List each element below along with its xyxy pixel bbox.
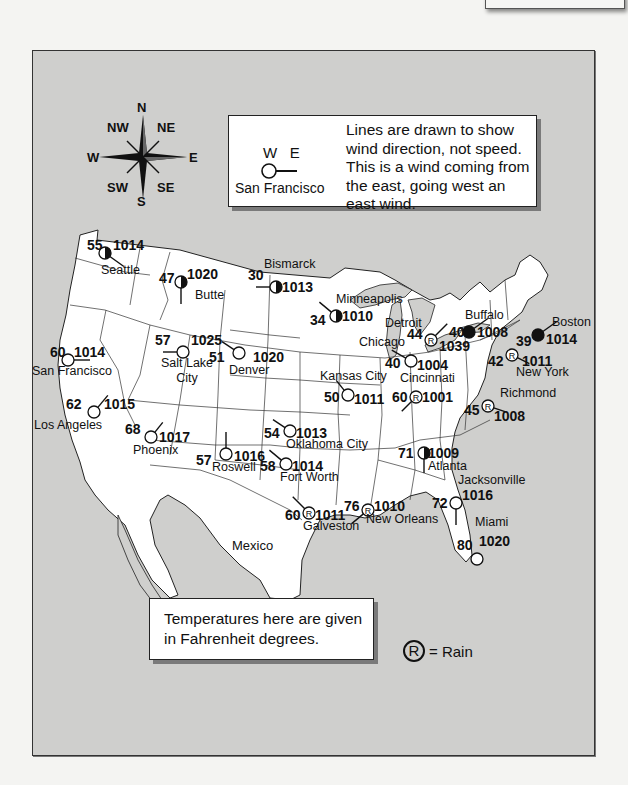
- los-angeles-station-symbol-icon: [64, 382, 124, 442]
- salt-lake-city-temperature: 57: [155, 332, 171, 348]
- bismarck-temperature: 30: [248, 267, 264, 283]
- phoenix-label: Phoenix: [133, 443, 178, 457]
- temperature-note-text: Temperatures here are given in Fahrenhei…: [164, 609, 369, 649]
- roswell-label: Roswell: [212, 460, 256, 474]
- san-francisco-pressure: 1014: [74, 344, 105, 360]
- new-orleans-label: New Orleans: [366, 512, 438, 526]
- boston-label: Boston: [552, 315, 591, 329]
- phoenix-temperature: 68: [125, 421, 141, 437]
- denver-label: Denver: [229, 363, 269, 377]
- kansas-city-temperature: 50: [324, 389, 340, 405]
- wind-legend-description: Lines are drawn to show wind direction, …: [346, 121, 534, 214]
- east-wind-symbol-icon: [259, 162, 319, 182]
- jacksonville-temperature: 72: [432, 495, 448, 511]
- galveston-temperature: 60: [285, 507, 301, 523]
- jacksonville-label: Jacksonville: [458, 473, 525, 487]
- temperature-note: Temperatures here are given in Fahrenhei…: [149, 598, 374, 660]
- rain-symbol-icon: R: [403, 640, 425, 662]
- los-angeles-temperature: 62: [66, 396, 82, 412]
- compass-se: SE: [157, 180, 174, 195]
- jacksonville-pressure: 1016: [462, 487, 493, 503]
- new-orleans-temperature: 76: [344, 498, 360, 514]
- svg-text:R: R: [485, 402, 492, 412]
- miami-temperature: 80: [457, 537, 473, 553]
- atlanta-label: Atlanta: [428, 459, 467, 473]
- san-francisco-label: San Francisco: [32, 364, 112, 378]
- minneapolis-temperature: 34: [310, 312, 326, 328]
- butte-temperature: 47: [159, 270, 175, 286]
- svg-text:R: R: [509, 351, 516, 361]
- seattle-pressure: 1014: [113, 237, 144, 253]
- compass-sw: SW: [107, 180, 128, 195]
- compass-n: N: [137, 100, 146, 115]
- new-york-temperature: 42: [488, 353, 504, 369]
- rain-legend-label: = Rain: [429, 643, 473, 660]
- compass-rose: N NW NE W E SW SE S: [85, 102, 200, 210]
- butte-label: Butte: [195, 288, 224, 302]
- mexico-label: Mexico: [232, 538, 273, 553]
- wind-legend-directions: W E: [263, 144, 300, 161]
- detroit-label: Detroit: [385, 316, 422, 330]
- miami-label: Miami: [475, 515, 508, 529]
- san-francisco-temperature: 60: [50, 344, 66, 360]
- wind-legend: W E San Francisco Lines are drawn to sho…: [228, 115, 537, 207]
- richmond-pressure: 1008: [494, 408, 525, 424]
- wind-legend-city: San Francisco: [235, 180, 324, 196]
- boston-pressure: 1014: [546, 331, 577, 347]
- miami-pressure: 1020: [479, 533, 510, 549]
- cincinnati-temperature: 60: [392, 389, 408, 405]
- buffalo-temperature: 40: [449, 324, 465, 340]
- chicago-label: Chicago: [359, 335, 405, 349]
- fort-worth-label: Fort Worth: [280, 470, 339, 484]
- kansas-city-pressure: 1011: [354, 391, 384, 407]
- los-angeles-label: Los Angeles: [34, 418, 102, 432]
- minneapolis-pressure: 1010: [342, 308, 373, 324]
- salt-lake-city-label: Salt Lake City: [157, 356, 217, 386]
- butte-pressure: 1020: [187, 266, 218, 282]
- compass-w: W: [87, 150, 99, 165]
- new-york-label: New York: [516, 365, 569, 379]
- compass-ne: NE: [157, 120, 175, 135]
- kansas-city-label: Kansas City: [320, 369, 387, 383]
- richmond-label: Richmond: [500, 386, 556, 400]
- rain-legend: R = Rain: [403, 640, 473, 662]
- cincinnati-label: Cincinnati: [400, 371, 455, 385]
- seattle-temperature: 55: [87, 237, 103, 253]
- bismarck-label: Bismarck: [264, 257, 315, 271]
- fort-worth-temperature: 58: [260, 458, 276, 474]
- seattle-label: Seattle: [101, 263, 140, 277]
- compass-s: S: [137, 194, 146, 209]
- richmond-temperature: 45: [464, 402, 480, 418]
- svg-text:R: R: [306, 509, 313, 519]
- san-francisco-station-symbol-icon: [38, 330, 98, 390]
- compass-e: E: [189, 150, 198, 165]
- atlanta-temperature: 71: [398, 445, 414, 461]
- svg-text:R: R: [413, 393, 420, 403]
- denver-temperature: 51: [209, 349, 225, 365]
- compass-nw: NW: [107, 120, 129, 135]
- cincinnati-pressure: 1001: [422, 389, 453, 405]
- minneapolis-label: Minneapolis: [336, 292, 403, 306]
- buffalo-label: Buffalo: [465, 308, 504, 322]
- roswell-temperature: 57: [196, 452, 212, 468]
